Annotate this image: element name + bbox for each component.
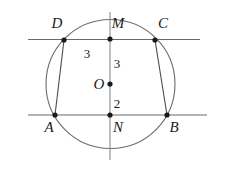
- chord-BC: [155, 40, 167, 115]
- point-O: [107, 81, 112, 86]
- chord-AD: [55, 40, 64, 115]
- point-N: [107, 112, 112, 117]
- point-label-C: C: [158, 15, 169, 31]
- measure-label-2-on: 2: [114, 96, 121, 111]
- point-label-O: O: [94, 76, 105, 92]
- measure-label-3-dm: 3: [84, 46, 91, 61]
- point-M: [107, 36, 112, 41]
- point-C: [152, 37, 157, 42]
- point-label-D: D: [51, 15, 63, 31]
- point-A: [52, 112, 57, 117]
- point-label-B: B: [169, 119, 178, 135]
- point-B: [164, 112, 169, 117]
- point-label-A: A: [43, 119, 54, 135]
- geometry-canvas: D M C O A N B 3 3 2: [0, 0, 231, 171]
- measure-label-3-mo: 3: [114, 56, 121, 71]
- point-D: [61, 37, 66, 42]
- point-label-N: N: [112, 119, 124, 135]
- point-label-M: M: [111, 15, 126, 31]
- geometry-figure: D M C O A N B 3 3 2: [0, 0, 231, 171]
